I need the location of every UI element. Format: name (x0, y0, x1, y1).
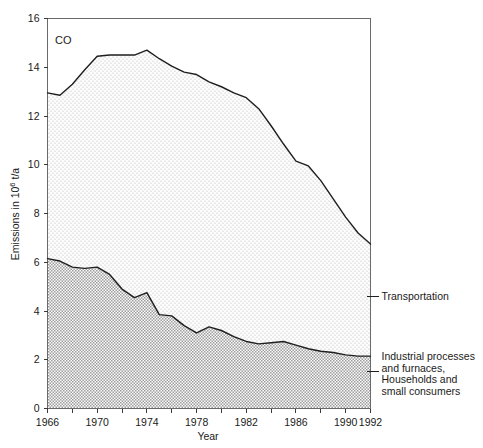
x-tick-label-1966: 1966 (36, 416, 60, 428)
industrial-label-line-4: small consumers (382, 385, 461, 397)
series-callouts: Transportation Industrial processes and … (367, 290, 478, 397)
industrial-households-label: Industrial processes and furnaces, House… (382, 350, 478, 397)
x-tick-label-1992: 1992 (359, 416, 383, 428)
x-tick-label-1978: 1978 (185, 416, 209, 428)
x-tick-label-1974: 1974 (135, 416, 159, 428)
plot-area (48, 50, 371, 408)
y-axis-title-pre: Emissions in 10 (9, 186, 21, 260)
co-emissions-chart: 0246810121416 19661970197419781982198619… (0, 0, 483, 448)
x-tick-label-1986: 1986 (284, 416, 308, 428)
panel-label-co: CO (55, 34, 72, 46)
x-axis-tick-labels: 19661970197419781982198619901992 (36, 416, 383, 428)
x-tick-label-1990: 1990 (334, 416, 358, 428)
y-axis-title-post: t/a (9, 168, 21, 183)
industrial-label-line-2: and furnaces, (382, 362, 446, 374)
y-tick-label-8: 8 (34, 207, 40, 219)
x-axis-ticks (48, 409, 371, 413)
chart-canvas: 0246810121416 19661970197419781982198619… (0, 0, 483, 448)
y-tick-label-6: 6 (34, 256, 40, 268)
y-tick-label-14: 14 (28, 61, 40, 73)
y-axis-ticks (44, 19, 48, 409)
y-tick-label-0: 0 (34, 402, 40, 414)
industrial-label-line-1: Industrial processes (382, 350, 475, 362)
y-axis-title: Emissions in 106 t/a (8, 168, 22, 260)
svg-text:Emissions in 106 t/a: Emissions in 106 t/a (8, 168, 22, 260)
y-tick-label-4: 4 (34, 305, 40, 317)
y-tick-label-2: 2 (34, 353, 40, 365)
x-tick-label-1970: 1970 (86, 416, 110, 428)
y-tick-label-12: 12 (28, 110, 40, 122)
transportation-label: Transportation (382, 290, 449, 302)
y-axis-tick-labels: 0246810121416 (28, 12, 40, 414)
y-tick-label-16: 16 (28, 12, 40, 24)
x-axis-title: Year (197, 430, 219, 442)
x-tick-label-1982: 1982 (235, 416, 259, 428)
y-tick-label-10: 10 (28, 158, 40, 170)
industrial-label-line-3: Households and (382, 373, 458, 385)
